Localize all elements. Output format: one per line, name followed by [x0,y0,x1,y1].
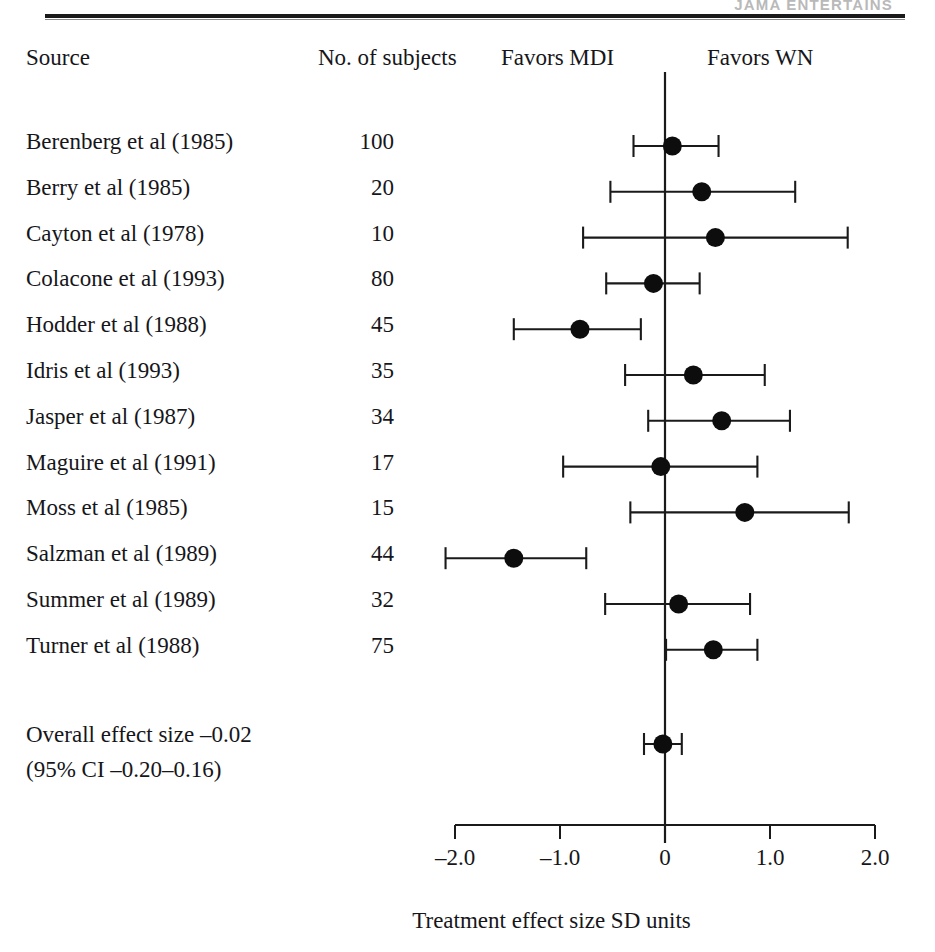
overall-effect-line-1: Overall effect size –0.02 [26,722,252,748]
study-subject-count: 80 [330,266,394,292]
x-axis-tick-label: –1.0 [520,845,600,871]
forest-row-1 [634,135,719,157]
forest-row-5 [514,318,641,340]
forest-row-overall [644,733,682,755]
effect-marker [712,411,731,430]
x-axis-tick-label: 0 [625,845,705,871]
study-subject-count: 100 [330,129,394,155]
forest-row-6 [625,364,765,386]
study-source-label: Idris et al (1993) [26,358,180,384]
study-source-label: Salzman et al (1989) [26,541,217,567]
forest-row-9 [630,501,848,523]
forest-row-3 [583,227,848,249]
effect-marker [570,320,589,339]
effect-marker [653,735,672,754]
forest-row-10 [446,547,587,569]
column-header-subjects: No. of subjects [318,45,457,71]
forest-row-2 [610,181,795,203]
top-rule [45,14,905,18]
annotation-favors-wn: Favors WN [707,45,813,71]
study-source-label: Summer et al (1989) [26,587,216,613]
study-subject-count: 34 [330,404,394,430]
study-source-label: Colacone et al (1993) [26,266,225,292]
study-source-label: Cayton et al (1978) [26,221,204,247]
study-source-label: Berry et al (1985) [26,175,190,201]
effect-marker [644,274,663,293]
top-rule-hairline [45,19,905,20]
forest-row-12 [666,639,757,661]
forest-row-4 [606,272,699,294]
forest-row-8 [563,456,757,478]
overall-effect-line-2: (95% CI –0.20–0.16) [26,757,221,783]
study-subject-count: 10 [330,221,394,247]
study-subject-count: 35 [330,358,394,384]
study-source-label: Turner et al (1988) [26,633,200,659]
effect-marker [684,366,703,385]
x-axis-title: Treatment effect size SD units [0,908,935,934]
study-source-label: Hodder et al (1988) [26,312,207,338]
effect-marker [692,182,711,201]
x-axis-tick-label: –2.0 [415,845,495,871]
effect-marker [651,457,670,476]
study-source-label: Berenberg et al (1985) [26,129,233,155]
study-source-label: Maguire et al (1991) [26,450,216,476]
study-subject-count: 20 [330,175,394,201]
forest-row-11 [605,593,750,615]
effect-marker [735,503,754,522]
study-subject-count: 17 [330,450,394,476]
effect-marker [504,549,523,568]
x-axis-tick-label: 2.0 [835,845,915,871]
study-subject-count: 44 [330,541,394,567]
study-subject-count: 45 [330,312,394,338]
running-head: JAMA ENTERTAINS [734,0,893,13]
study-subject-count: 32 [330,587,394,613]
study-source-label: Moss et al (1985) [26,495,188,521]
effect-marker [704,640,723,659]
study-subject-count: 15 [330,495,394,521]
effect-marker [669,595,688,614]
study-source-label: Jasper et al (1987) [26,404,195,430]
forest-row-7 [648,410,790,432]
column-header-source: Source [26,45,90,71]
annotation-favors-mdi: Favors MDI [501,45,614,71]
effect-marker [706,228,725,247]
study-subject-count: 75 [330,633,394,659]
effect-marker [663,137,682,156]
x-axis-tick-label: 1.0 [730,845,810,871]
